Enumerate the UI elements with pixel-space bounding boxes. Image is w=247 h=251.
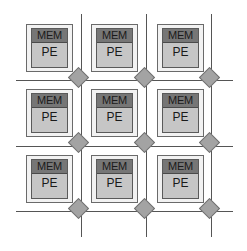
pe-block: PE xyxy=(97,108,132,126)
tile-r0-c2: MEM PE xyxy=(157,24,204,72)
tile-core: MEM PE xyxy=(96,28,133,68)
pe-block: PE xyxy=(32,43,67,61)
tile-r1-c2: MEM PE xyxy=(157,89,204,137)
pe-block: PE xyxy=(97,43,132,61)
pe-block: PE xyxy=(163,43,198,61)
tile-r2-c1: MEM PE xyxy=(91,155,138,203)
tile-core: MEM PE xyxy=(31,28,68,68)
pe-block: PE xyxy=(97,174,132,192)
tile-core: MEM PE xyxy=(96,159,133,199)
interconnect-row-2 xyxy=(16,146,233,147)
pe-block: PE xyxy=(32,108,67,126)
pe-block: PE xyxy=(163,108,198,126)
mem-block: MEM xyxy=(163,29,198,43)
tile-core: MEM PE xyxy=(162,159,199,199)
tile-r1-c0: MEM PE xyxy=(26,89,73,137)
pe-block: PE xyxy=(163,174,198,192)
mem-block: MEM xyxy=(97,160,132,174)
tile-r1-c1: MEM PE xyxy=(91,89,138,137)
mem-block: MEM xyxy=(32,94,67,108)
tile-core: MEM PE xyxy=(31,159,68,199)
mem-block: MEM xyxy=(97,94,132,108)
tile-core: MEM PE xyxy=(162,28,199,68)
tile-r0-c0: MEM PE xyxy=(26,24,73,72)
tile-r2-c0: MEM PE xyxy=(26,155,73,203)
tile-r0-c1: MEM PE xyxy=(91,24,138,72)
mem-block: MEM xyxy=(163,160,198,174)
mem-block: MEM xyxy=(32,160,67,174)
mesh-diagram: MEM PE MEM PE MEM PE MEM PE MEM PE MEM P… xyxy=(0,0,247,251)
tile-r2-c2: MEM PE xyxy=(157,155,204,203)
mem-block: MEM xyxy=(163,94,198,108)
tile-core: MEM PE xyxy=(96,93,133,133)
mem-block: MEM xyxy=(97,29,132,43)
interconnect-row-1 xyxy=(16,80,233,81)
tile-core: MEM PE xyxy=(31,93,68,133)
pe-block: PE xyxy=(32,174,67,192)
mem-block: MEM xyxy=(32,29,67,43)
interconnect-row-3 xyxy=(16,211,233,212)
tile-core: MEM PE xyxy=(162,93,199,133)
